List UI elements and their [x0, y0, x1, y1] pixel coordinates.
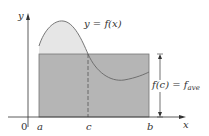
- average-rectangle: [39, 54, 149, 117]
- y-axis-label: y: [18, 11, 24, 21]
- tick-label-b: b: [147, 122, 153, 132]
- origin-label: 0: [21, 122, 27, 132]
- average-label: f(c) = fave: [152, 80, 200, 92]
- average-label-sub: ave: [188, 84, 200, 92]
- x-axis-label: x: [183, 120, 189, 130]
- average-label-main: f(c) = f: [152, 79, 188, 90]
- y-axis-arrow-icon: [26, 13, 30, 20]
- height-arrow-bottom-icon: [158, 112, 162, 117]
- height-arrow-top-icon: [158, 54, 162, 59]
- tick-label-c: c: [86, 122, 92, 132]
- curve-label: y = f(x): [84, 19, 122, 29]
- mvt-integral-diagram: y y = f(x) f(c) = fave 0 a c b x: [0, 0, 209, 136]
- tick-label-a: a: [37, 122, 43, 132]
